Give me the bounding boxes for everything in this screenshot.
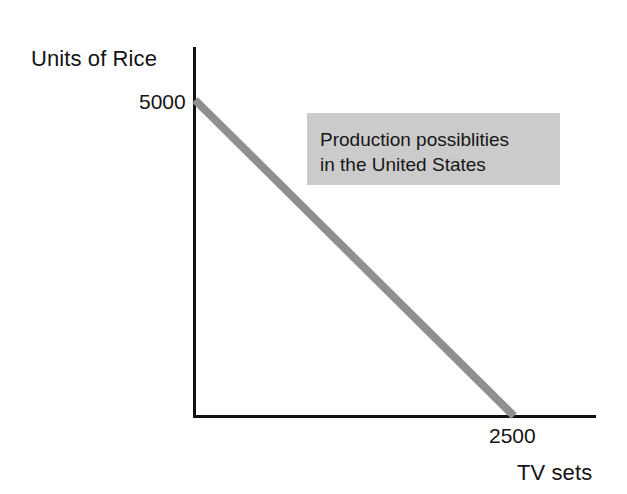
annotation-box: Production possiblities in the United St… xyxy=(307,113,560,185)
ppf-chart-figure: Units of Rice 5000 2500 TV sets Producti… xyxy=(0,0,627,494)
y-axis-title: Units of Rice xyxy=(31,46,157,72)
x-axis-line xyxy=(193,415,596,418)
annotation-line-2: in the United States xyxy=(320,152,560,177)
annotation-line-1: Production possiblities xyxy=(320,127,560,152)
y-axis-tick-label-5000: 5000 xyxy=(139,90,185,114)
ppf-curve xyxy=(0,0,627,494)
x-axis-title: TV sets xyxy=(517,460,592,486)
x-axis-tick-label-2500: 2500 xyxy=(489,424,536,448)
y-axis-line xyxy=(193,47,196,418)
